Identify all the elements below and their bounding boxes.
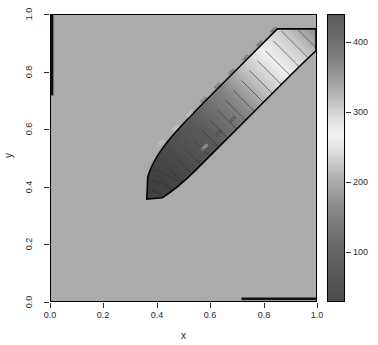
colorbar-tick-label: 200 xyxy=(353,177,368,187)
x-tick-label: 0.2 xyxy=(88,310,118,320)
colorbar-tick xyxy=(346,112,351,113)
x-tick-label: 0.6 xyxy=(195,310,225,320)
colorbar-tick xyxy=(346,252,351,253)
y-tick-label: 0.8 xyxy=(24,61,34,83)
plot-panel xyxy=(50,14,317,302)
bottom-edge-contour xyxy=(242,298,316,301)
colorbar-tick-label: 400 xyxy=(353,37,368,47)
y-tick xyxy=(44,187,49,188)
left-edge-contour xyxy=(51,15,53,95)
x-tick-label: 0.8 xyxy=(249,310,279,320)
y-axis-title: y xyxy=(3,141,14,171)
x-tick-label: 0.4 xyxy=(142,310,172,320)
x-tick-label: 1.0 xyxy=(302,310,332,320)
x-tick xyxy=(103,303,104,308)
x-tick xyxy=(264,303,265,308)
colorbar-tick-label: 100 xyxy=(353,247,368,257)
y-tick-label: 0.6 xyxy=(24,118,34,140)
plot-surface xyxy=(51,15,316,301)
colorbar xyxy=(327,14,345,302)
y-tick xyxy=(44,14,49,15)
y-tick xyxy=(44,129,49,130)
colorbar-tick xyxy=(346,182,351,183)
contour-plot-figure: 360 350 340 330 320 310 300 280 260 240 … xyxy=(0,0,378,345)
y-tick-label: 0.2 xyxy=(24,233,34,255)
y-tick-label: 1.0 xyxy=(24,3,34,25)
colorbar-gradient xyxy=(328,15,344,301)
x-tick xyxy=(210,303,211,308)
x-tick-label: 0.0 xyxy=(35,310,65,320)
x-tick xyxy=(317,303,318,308)
y-tick-label: 0.0 xyxy=(24,291,34,313)
y-tick-label: 0.4 xyxy=(24,176,34,198)
x-axis-title: x xyxy=(0,330,367,341)
colorbar-tick xyxy=(346,42,351,43)
x-tick xyxy=(157,303,158,308)
x-tick xyxy=(50,303,51,308)
y-tick xyxy=(44,72,49,73)
colorbar-tick-label: 300 xyxy=(353,107,368,117)
y-tick xyxy=(44,302,49,303)
y-tick xyxy=(44,244,49,245)
